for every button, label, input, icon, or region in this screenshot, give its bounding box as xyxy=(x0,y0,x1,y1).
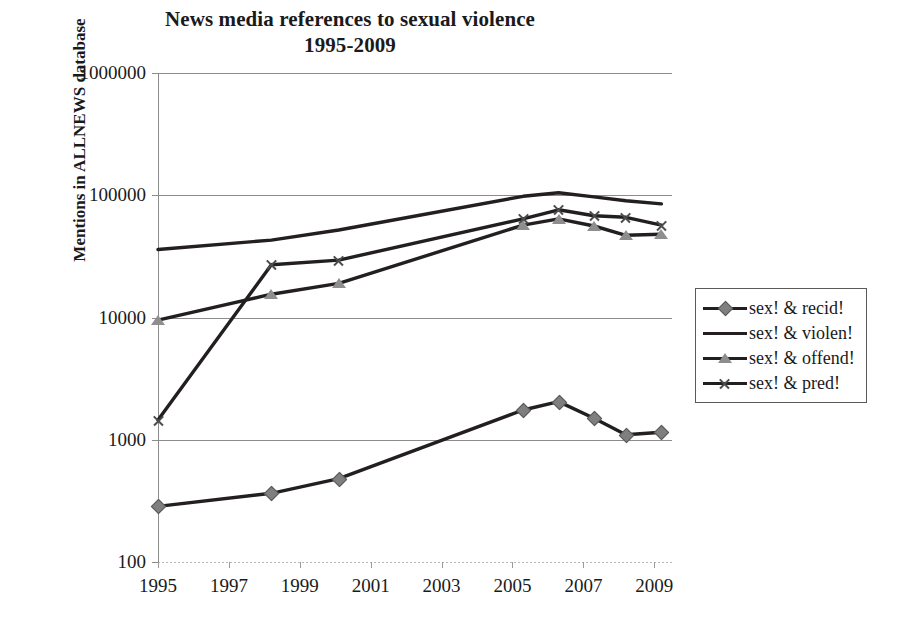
legend-item[interactable]: sex! & pred! xyxy=(703,370,859,395)
y-tick-label: 100000 xyxy=(26,185,146,204)
data-point-marker xyxy=(619,211,632,224)
chart-title: News media references to sexual violence… xyxy=(0,6,700,58)
chart-legend: sex! & recid!sex! & violen!sex! & offend… xyxy=(695,288,867,403)
legend-marker-glyph xyxy=(718,377,731,390)
chart-title-line-2: 1995-2009 xyxy=(0,32,700,58)
gridline xyxy=(158,562,672,563)
legend-label: sex! & pred! xyxy=(749,374,840,392)
series-line xyxy=(158,402,661,507)
data-point-marker xyxy=(552,203,565,216)
x-tick-mark xyxy=(158,562,159,568)
data-point-marker xyxy=(655,219,668,232)
chart-title-line-1: News media references to sexual violence xyxy=(0,6,700,32)
legend-item[interactable]: sex! & recid! xyxy=(703,295,859,320)
series-line xyxy=(158,210,661,420)
y-tick-label: 100 xyxy=(26,552,146,571)
data-point-marker xyxy=(517,212,530,225)
legend-label: sex! & offend! xyxy=(749,349,855,367)
legend-marker-glyph xyxy=(718,300,734,316)
data-point-marker xyxy=(332,254,345,267)
y-tick-label: 1000 xyxy=(26,430,146,449)
chart-figure: News media references to sexual violence… xyxy=(0,0,907,619)
series-line xyxy=(158,193,661,250)
x-tick-mark xyxy=(300,562,301,568)
legend-label: sex! & recid! xyxy=(749,299,844,317)
data-point-marker xyxy=(151,315,165,325)
data-point-marker xyxy=(264,289,278,299)
x-tick-mark xyxy=(654,562,655,568)
x-tick-mark xyxy=(229,562,230,568)
y-axis-title: Mentions in ALLNEWS database xyxy=(70,0,90,305)
x-tick-mark xyxy=(583,562,584,568)
x-tick-label: 1999 xyxy=(260,576,340,595)
data-point-marker xyxy=(152,414,165,427)
legend-marker-diamond-icon xyxy=(703,299,747,317)
x-tick-mark xyxy=(442,562,443,568)
data-point-marker xyxy=(332,278,346,288)
legend-item[interactable]: sex! & violen! xyxy=(703,320,859,345)
legend-marker-glyph xyxy=(718,353,732,363)
y-tick-label: 10000 xyxy=(26,308,146,327)
x-tick-label: 1997 xyxy=(189,576,269,595)
series-lines xyxy=(158,73,672,562)
legend-marker-none-icon xyxy=(703,324,747,342)
legend-marker-triangle-icon xyxy=(703,349,747,367)
legend-item[interactable]: sex! & offend! xyxy=(703,345,859,370)
x-tick-label: 2005 xyxy=(472,576,552,595)
y-tick-label: 1000000 xyxy=(26,63,146,82)
x-tick-label: 2009 xyxy=(614,576,694,595)
plot-area xyxy=(158,73,672,562)
x-tick-label: 1995 xyxy=(118,576,198,595)
data-point-marker xyxy=(619,230,633,240)
legend-marker-x-icon xyxy=(703,374,747,392)
x-tick-mark xyxy=(371,562,372,568)
data-point-marker xyxy=(265,258,278,271)
x-tick-label: 2001 xyxy=(331,576,411,595)
x-tick-label: 2003 xyxy=(402,576,482,595)
legend-label: sex! & violen! xyxy=(749,324,853,342)
x-tick-mark xyxy=(512,562,513,568)
series-line xyxy=(158,219,661,320)
x-tick-label: 2007 xyxy=(543,576,623,595)
data-point-marker xyxy=(588,209,601,222)
data-point-marker xyxy=(587,221,601,231)
